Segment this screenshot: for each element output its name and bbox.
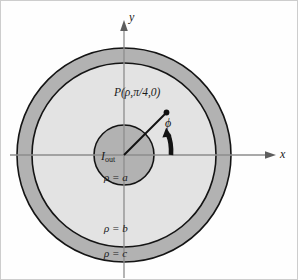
current-subscript: out xyxy=(105,155,115,164)
current-out-label: Iout xyxy=(101,150,115,162)
x-axis-label: x xyxy=(280,148,285,160)
figure-container: y x P(ρ,π/4,0) Iout ϕ ρ = a ρ = b ρ = c xyxy=(0,0,298,280)
rho-equals-b-label: ρ = b xyxy=(104,223,128,234)
phi-angle-label: ϕ xyxy=(165,117,171,129)
figure-canvas xyxy=(0,0,298,280)
rho-equals-a-label: ρ = a xyxy=(104,172,128,183)
x-axis-arrowhead xyxy=(265,151,276,159)
rho-equals-c-label: ρ = c xyxy=(104,248,127,259)
point-p-marker xyxy=(164,110,170,116)
y-axis-arrowhead xyxy=(120,20,128,31)
y-axis-label: y xyxy=(129,11,134,23)
point-p-label: P(ρ,π/4,0) xyxy=(114,87,160,99)
